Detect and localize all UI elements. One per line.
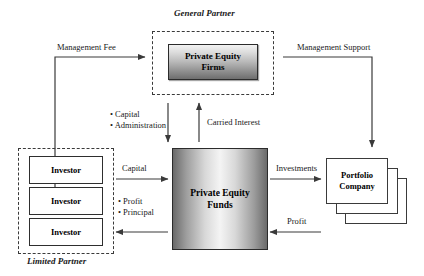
investor-1-label: Investor: [51, 165, 81, 175]
portfolio-label-line1: Portfolio: [341, 170, 373, 180]
node-investor-1[interactable]: Investor: [29, 156, 103, 184]
label-profit-principal-line2: • Principal: [118, 207, 154, 218]
node-investor-2[interactable]: Investor: [29, 187, 103, 215]
label-capital: Capital: [122, 163, 147, 174]
label-management-fee: Management Fee: [57, 42, 116, 53]
pe-firms-label-line1: Private Equity: [185, 51, 241, 61]
label-profit-principal: • Profit • Principal: [118, 196, 154, 219]
limited-partner-title: Limited Partner: [27, 256, 86, 267]
node-portfolio-company[interactable]: Portfolio Company: [326, 158, 388, 204]
label-capital-administration: • Capital • Administration: [110, 109, 166, 132]
node-private-equity-firms[interactable]: Private Equity Firms: [168, 44, 258, 80]
label-capital-admin-line1: • Capital: [110, 109, 166, 120]
label-investments: Investments: [276, 163, 317, 174]
portfolio-label-line2: Company: [339, 181, 374, 191]
pe-funds-label-line1: Private Equity: [190, 188, 249, 198]
portfolio-company-label: Portfolio Company: [339, 170, 374, 192]
pe-funds-label-line2: Funds: [207, 200, 232, 210]
label-carried-interest: Carried Interest: [207, 117, 260, 128]
label-management-support: Management Support: [297, 42, 370, 53]
investor-2-label: Investor: [51, 196, 81, 206]
node-investor-3[interactable]: Investor: [29, 218, 103, 246]
label-profit: Profit: [287, 216, 306, 227]
pe-firms-label: Private Equity Firms: [185, 51, 241, 74]
label-profit-principal-line1: • Profit: [118, 196, 154, 207]
node-private-equity-funds[interactable]: Private Equity Funds: [172, 148, 268, 250]
pe-funds-label: Private Equity Funds: [190, 187, 249, 212]
investor-3-label: Investor: [51, 227, 81, 237]
general-partner-title: General Partner: [174, 8, 235, 19]
label-capital-admin-line2: • Administration: [110, 120, 166, 131]
diagram-canvas: General Partner Private Equity Firms Inv…: [0, 0, 424, 276]
arrow-management-support: [283, 57, 372, 147]
pe-firms-label-line2: Firms: [202, 62, 225, 72]
